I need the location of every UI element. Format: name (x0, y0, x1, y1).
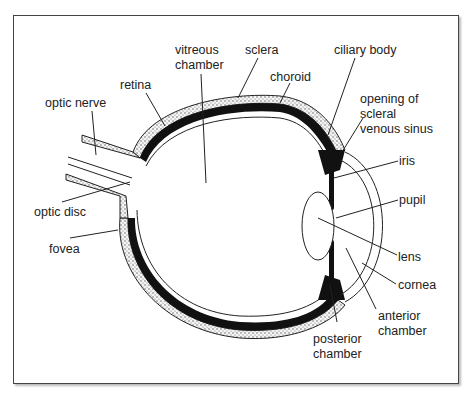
label-optic-nerve: optic nerve (45, 96, 106, 111)
lens-shape (302, 192, 334, 260)
cornea-shape (340, 160, 374, 295)
label-posterior-chamber: posteriorchamber (313, 332, 362, 362)
label-cornea: cornea (398, 278, 436, 293)
label-lens: lens (398, 250, 421, 265)
label-optic-disc: optic disc (34, 205, 86, 220)
label-choroid: choroid (270, 70, 311, 85)
label-iris: iris (399, 154, 415, 169)
label-opening-scleral-venous-sinus: opening ofscleralvenous sinus (360, 92, 433, 137)
label-vitreous-chamber: vitreouschamber (175, 43, 224, 73)
label-retina: retina (120, 78, 151, 93)
label-sclera: sclera (245, 43, 278, 58)
label-pupil: pupil (399, 193, 425, 208)
label-anterior-chamber: anteriorchamber (378, 309, 427, 339)
label-fovea: fovea (49, 242, 80, 257)
label-ciliary-body: ciliary body (334, 43, 397, 58)
